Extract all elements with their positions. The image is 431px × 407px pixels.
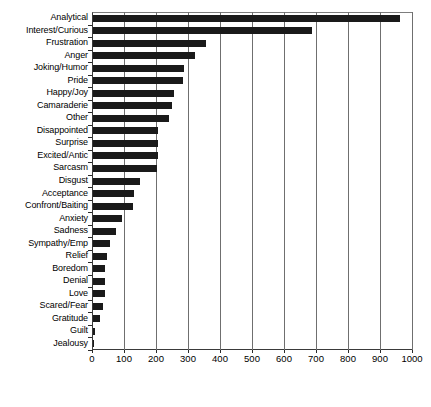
category-label-denial: Denial — [0, 276, 88, 285]
category-tick-25 — [88, 337, 92, 338]
bar-sarcasm — [93, 165, 157, 172]
value-axis-label-900: 900 — [372, 353, 388, 364]
category-axis-labels: AnalyticalInterest/CuriousFrustrationAng… — [0, 12, 88, 350]
category-tick-6 — [88, 100, 92, 101]
category-label-sympathy-emp: Sympathy/Emp — [0, 239, 88, 248]
category-tick-1 — [88, 37, 92, 38]
category-tick-16 — [88, 225, 92, 226]
bar-love — [93, 290, 105, 297]
bar-boredom — [93, 265, 105, 272]
value-axis-label-700: 700 — [308, 353, 324, 364]
category-label-jealousy: Jealousy — [0, 339, 88, 348]
bar-confront-baiting — [93, 203, 133, 210]
category-tick-15 — [88, 212, 92, 213]
value-axis-label-300: 300 — [180, 353, 196, 364]
bar-denial — [93, 278, 105, 285]
category-tick-22 — [88, 300, 92, 301]
value-axis-label-0: 0 — [89, 353, 94, 364]
bar-camaraderie — [93, 102, 172, 109]
category-tick-21 — [88, 287, 92, 288]
category-label-guilt: Guilt — [0, 326, 88, 335]
category-label-boredom: Boredom — [0, 264, 88, 273]
category-label-confront-baiting: Confront/Baiting — [0, 201, 88, 210]
category-tick-9 — [88, 137, 92, 138]
bar-other — [93, 115, 169, 122]
bar-jealousy — [93, 340, 94, 347]
value-axis-labels: 01002003004005006007008009001000 — [0, 353, 431, 369]
bar-frustration — [93, 40, 206, 47]
value-axis-label-200: 200 — [148, 353, 164, 364]
category-tick-18 — [88, 250, 92, 251]
value-axis-label-1000: 1000 — [401, 353, 422, 364]
category-label-joking-humor: Joking/Humor — [0, 63, 88, 72]
bar-excited-antic — [93, 152, 158, 159]
bar-anger — [93, 52, 195, 59]
chart-page: AnalyticalInterest/CuriousFrustrationAng… — [0, 0, 431, 407]
category-label-anger: Anger — [0, 51, 88, 60]
bar-disappointed — [93, 127, 158, 134]
category-label-frustration: Frustration — [0, 38, 88, 47]
category-tick-2 — [88, 50, 92, 51]
category-tick-3 — [88, 62, 92, 63]
category-tick-23 — [88, 312, 92, 313]
bar-relief — [93, 253, 107, 260]
category-tick-12 — [88, 175, 92, 176]
category-label-disgust: Disgust — [0, 176, 88, 185]
bar-disgust — [93, 178, 140, 185]
value-axis-label-800: 800 — [340, 353, 356, 364]
category-label-relief: Relief — [0, 251, 88, 260]
category-label-gratitude: Gratitude — [0, 314, 88, 323]
category-label-sadness: Sadness — [0, 226, 88, 235]
category-label-analytical: Analytical — [0, 13, 88, 22]
category-tick-4 — [88, 75, 92, 76]
bar-analytical — [93, 15, 400, 22]
category-tick-0 — [88, 25, 92, 26]
category-tick-17 — [88, 237, 92, 238]
bar-anxiety — [93, 215, 122, 222]
bar-scared-fear — [93, 303, 103, 310]
category-label-happy-joy: Happy/Joy — [0, 88, 88, 97]
category-label-love: Love — [0, 289, 88, 298]
category-label-camaraderie: Camaraderie — [0, 101, 88, 110]
category-label-disappointed: Disappointed — [0, 126, 88, 135]
bar-sadness — [93, 228, 116, 235]
bar-joking-humor — [93, 65, 184, 72]
category-tick-8 — [88, 125, 92, 126]
category-label-excited-antic: Excited/Antic — [0, 151, 88, 160]
category-tick-7 — [88, 112, 92, 113]
value-axis-label-600: 600 — [276, 353, 292, 364]
bar-guilt — [93, 328, 95, 335]
bar-pride — [93, 77, 183, 84]
value-axis-label-500: 500 — [244, 353, 260, 364]
horizontal-bar-chart: AnalyticalInterest/CuriousFrustrationAng… — [0, 0, 431, 407]
category-label-pride: Pride — [0, 76, 88, 85]
category-tick-11 — [88, 162, 92, 163]
category-label-surprise: Surprise — [0, 138, 88, 147]
value-axis-label-100: 100 — [116, 353, 132, 364]
category-tick-19 — [88, 262, 92, 263]
bar-gratitude — [93, 315, 100, 322]
bar-sympathy-emp — [93, 240, 110, 247]
category-label-other: Other — [0, 113, 88, 122]
bar-surprise — [93, 140, 158, 147]
category-label-interest-curious: Interest/Curious — [0, 26, 88, 35]
category-tick-5 — [88, 87, 92, 88]
category-tick-20 — [88, 275, 92, 276]
bar-series — [93, 12, 413, 350]
category-tick-14 — [88, 200, 92, 201]
category-tick-24 — [88, 325, 92, 326]
category-label-sarcasm: Sarcasm — [0, 163, 88, 172]
category-tick-13 — [88, 187, 92, 188]
category-tick-10 — [88, 150, 92, 151]
category-label-anxiety: Anxiety — [0, 214, 88, 223]
value-axis-label-400: 400 — [212, 353, 228, 364]
category-label-scared-fear: Scared/Fear — [0, 301, 88, 310]
bar-interest-curious — [93, 27, 312, 34]
bar-acceptance — [93, 190, 134, 197]
category-label-acceptance: Acceptance — [0, 189, 88, 198]
bar-happy-joy — [93, 90, 174, 97]
